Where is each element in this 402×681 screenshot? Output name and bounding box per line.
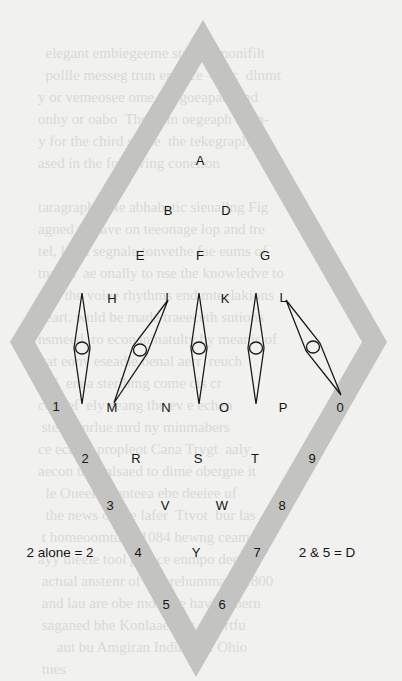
grid-label-p: P — [279, 400, 288, 415]
grid-label-4: 4 — [134, 545, 141, 560]
grid-label-v: V — [161, 498, 170, 513]
grid-label-a: A — [196, 153, 205, 168]
needle-5-pivot-icon — [307, 341, 320, 353]
grid-label-i: I — [165, 290, 169, 305]
grid-label-d: D — [221, 203, 230, 218]
grid-label-y: Y — [192, 545, 201, 560]
grid-label-3: 3 — [106, 498, 113, 513]
legend-single-needle-rule: 2 alone = 2 — [26, 545, 93, 560]
grid-label-0: 0 — [336, 400, 343, 415]
grid-label-7: 7 — [253, 545, 260, 560]
needle-group — [74, 293, 341, 404]
grid-label-m: M — [107, 400, 118, 415]
five-needle-telegraph-diagram — [0, 0, 402, 681]
grid-label-r: R — [131, 451, 140, 466]
needle-1-pivot-icon — [76, 342, 89, 354]
grid-label-w: W — [216, 498, 228, 513]
grid-label-k: K — [221, 291, 230, 306]
legend-pair-needle-rule: 2 & 5 = D — [299, 545, 356, 560]
grid-label-g: G — [260, 248, 270, 263]
grid-label-e: E — [136, 248, 145, 263]
grid-label-o: O — [219, 400, 229, 415]
grid-label-8: 8 — [278, 498, 285, 513]
grid-label-s: S — [194, 451, 203, 466]
grid-label-t: T — [251, 451, 259, 466]
grid-label-9: 9 — [308, 451, 315, 466]
grid-label-5: 5 — [162, 597, 169, 612]
needle-3-pivot-icon — [193, 342, 206, 354]
grid-label-n: N — [161, 400, 170, 415]
grid-label-b: B — [164, 203, 173, 218]
grid-label-2: 2 — [81, 451, 88, 466]
grid-label-f: F — [196, 248, 204, 263]
needle-4-pivot-icon — [250, 342, 263, 354]
grid-label-1: 1 — [52, 399, 59, 414]
grid-label-l: L — [279, 290, 286, 305]
grid-label-6: 6 — [218, 597, 225, 612]
grid-label-h: H — [107, 291, 116, 306]
needle-2-pivot-icon — [134, 344, 147, 356]
